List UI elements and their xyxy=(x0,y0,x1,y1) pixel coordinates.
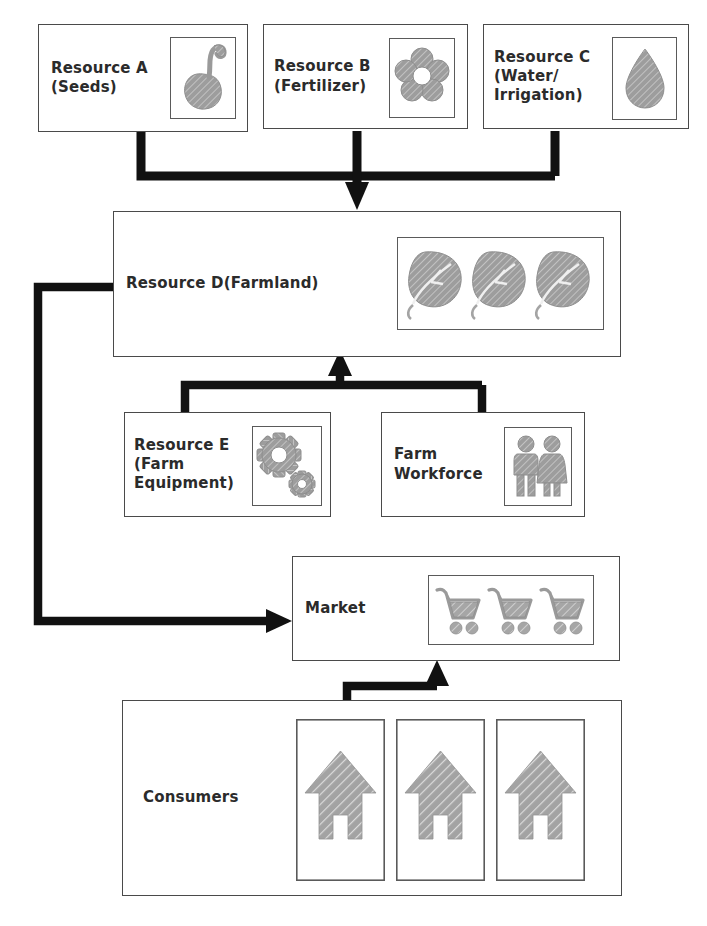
seed-sprout-icon xyxy=(170,37,236,119)
node-resource-c-label: Resource C (Water/ Irrigation) xyxy=(494,48,590,106)
water-drop-icon xyxy=(612,37,677,120)
gears-icon xyxy=(252,426,322,506)
shopping-carts-icon xyxy=(428,575,594,645)
house-icon-3 xyxy=(496,719,585,881)
flower-icon xyxy=(389,38,455,118)
diagram-canvas: Resource A (Seeds) Resource B (Fertilize… xyxy=(0,0,707,926)
node-resource-d-label: Resource D(Farmland) xyxy=(126,274,319,293)
node-resource-a[interactable]: Resource A (Seeds) xyxy=(38,24,248,132)
node-farm-workforce-label: Farm Workforce xyxy=(394,445,483,483)
node-market-label: Market xyxy=(305,599,366,618)
three-leaves-icon xyxy=(397,237,604,330)
node-consumers[interactable]: Consumers xyxy=(122,700,622,896)
node-resource-b-label: Resource B (Fertilizer) xyxy=(274,57,371,95)
node-farm-workforce[interactable]: Farm Workforce xyxy=(381,412,585,517)
node-resource-b[interactable]: Resource B (Fertilizer) xyxy=(263,24,468,129)
node-consumers-label: Consumers xyxy=(143,788,239,807)
node-resource-e[interactable]: Resource E (Farm Equipment) xyxy=(124,412,331,517)
node-resource-a-label: Resource A (Seeds) xyxy=(51,59,148,97)
node-resource-e-label: Resource E (Farm Equipment) xyxy=(134,436,234,494)
arrowhead-to-market xyxy=(266,609,292,633)
two-people-icon xyxy=(504,427,572,506)
house-icon-1 xyxy=(296,719,385,881)
node-resource-c[interactable]: Resource C (Water/ Irrigation) xyxy=(483,24,689,129)
arrowhead-to-market-from-consumers xyxy=(425,660,449,686)
house-icon-2 xyxy=(396,719,485,881)
node-resource-d[interactable]: Resource D(Farmland) xyxy=(113,211,621,357)
arrowhead-to-farmland xyxy=(345,182,369,210)
node-market[interactable]: Market xyxy=(292,556,620,661)
